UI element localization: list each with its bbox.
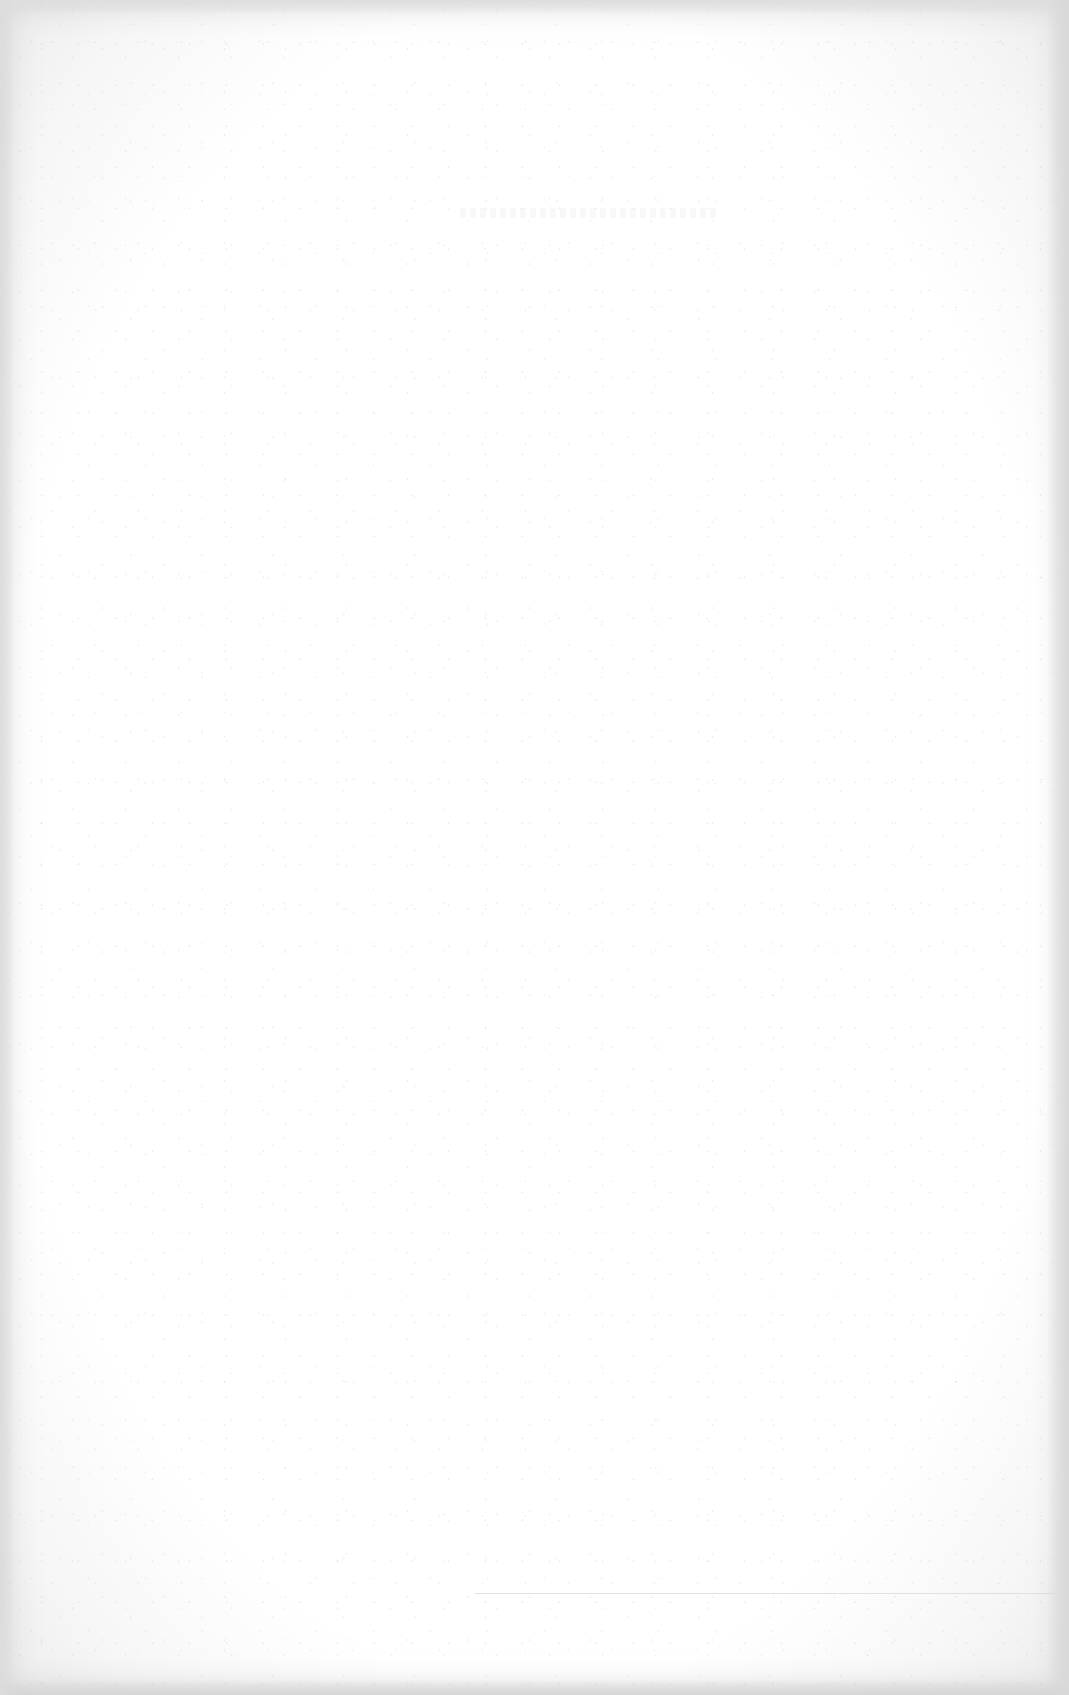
bleed-through-text-smudge: [460, 208, 720, 218]
scan-edge-bottom: [0, 1679, 1069, 1695]
scan-edge-left: [0, 0, 14, 1695]
bleed-through-horizontal-rule: [475, 1593, 1055, 1594]
blank-scanned-page: [0, 0, 1069, 1695]
scan-edge-right: [1047, 0, 1069, 1695]
scan-edge-top: [0, 0, 1069, 14]
paper-grain-texture: [0, 0, 1069, 1695]
